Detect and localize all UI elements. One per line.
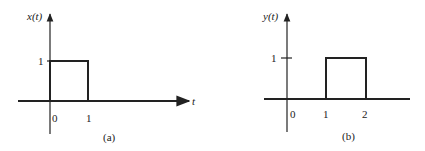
x-tick-label-b-2: 2 xyxy=(362,108,368,120)
pulse-a xyxy=(50,61,88,101)
caption-b: (b) xyxy=(342,130,355,143)
x-tick-label-b-0: 0 xyxy=(290,108,296,120)
signal-diagram: x(t) 1 0 1 t (a) y(t) 1 0 1 2 (b) xyxy=(0,0,425,151)
x-tick-label-b-1: 1 xyxy=(323,108,329,120)
plot-a: x(t) 1 0 1 t (a) xyxy=(18,10,196,144)
x-tick-label-a-0: 0 xyxy=(52,112,58,124)
pulse-b xyxy=(326,58,366,99)
x-label-a: t xyxy=(192,95,196,107)
y-tick-label-b: 1 xyxy=(271,52,277,64)
plot-b: y(t) 1 0 1 2 (b) xyxy=(262,10,410,143)
x-tick-label-a-1: 1 xyxy=(86,112,92,124)
y-label-a: x(t) xyxy=(26,10,43,23)
y-label-b: y(t) xyxy=(262,10,279,23)
caption-a: (a) xyxy=(103,131,116,144)
y-tick-label-a: 1 xyxy=(38,55,44,67)
